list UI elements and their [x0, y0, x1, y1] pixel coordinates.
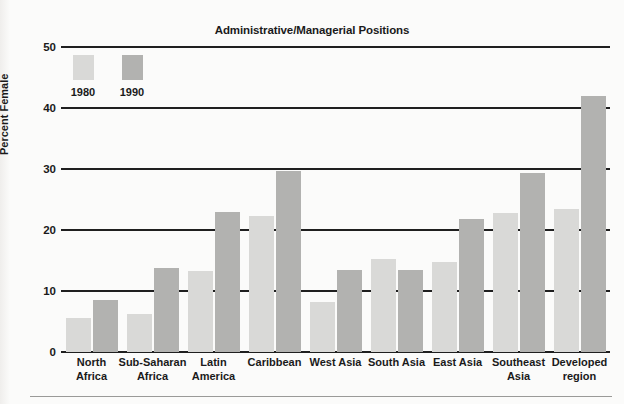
bar [337, 270, 362, 352]
chart-page: Administrative/Managerial Positions Perc… [0, 0, 624, 404]
legend-swatch [122, 55, 143, 80]
bar [581, 96, 606, 352]
bar-group [493, 47, 545, 352]
legend-item-1990: 1990 [110, 55, 154, 98]
bar-group [188, 47, 240, 352]
bar [432, 262, 457, 352]
x-category-line: Developed [543, 356, 616, 370]
legend-item-1980: 1980 [61, 55, 105, 98]
legend-label: 1980 [61, 86, 105, 98]
y-tick-label-20: 20 [20, 224, 56, 236]
bar [276, 171, 301, 352]
bar [154, 268, 179, 352]
bar-group [249, 47, 301, 352]
bar [93, 300, 118, 352]
x-category-label: Developedregion [543, 356, 616, 383]
bar [520, 173, 545, 352]
x-axis-categories: NorthAfricaSub-SaharanAfricaLatinAmerica… [61, 356, 610, 396]
y-tick-label-0: 0 [20, 346, 56, 358]
y-tick-label-50: 50 [20, 41, 56, 53]
bar-group [432, 47, 484, 352]
page-bottom-rule [30, 396, 612, 397]
bar [188, 271, 213, 352]
bar-group [371, 47, 423, 352]
bar [398, 270, 423, 352]
bar [554, 209, 579, 352]
legend-label: 1990 [110, 86, 154, 98]
y-tick-label-40: 40 [20, 102, 56, 114]
x-category-line: region [543, 370, 616, 384]
chart-title: Administrative/Managerial Positions [0, 24, 624, 36]
bar [371, 259, 396, 352]
bar [493, 213, 518, 352]
bar [310, 302, 335, 352]
bar-group [554, 47, 606, 352]
y-tick-label-30: 30 [20, 163, 56, 175]
bar [66, 318, 91, 352]
x-category-line: America [177, 370, 250, 384]
bar-group [310, 47, 362, 352]
bar [459, 219, 484, 352]
legend-swatch [73, 55, 94, 80]
y-axis-title: Percent Female [0, 74, 10, 155]
bar [215, 212, 240, 352]
bar [249, 216, 274, 352]
y-tick-label-10: 10 [20, 285, 56, 297]
bar [127, 314, 152, 352]
